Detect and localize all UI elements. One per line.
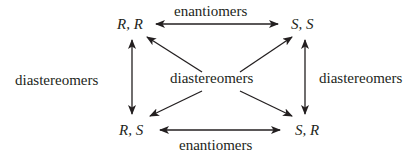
diag-arrow-top-right (240, 37, 292, 72)
node-ss: S, S (291, 17, 314, 32)
diag-arrow-bottom-right (240, 91, 292, 116)
label-enantiomers-top: enantiomers (174, 4, 247, 19)
node-rs: R, S (119, 123, 143, 138)
diag-arrow-top-left (147, 37, 202, 72)
label-diastereomers-left: diastereomers (15, 73, 98, 88)
node-sr: S, R (295, 123, 319, 138)
label-enantiomers-bottom: enantiomers (179, 138, 252, 153)
label-diastereomers-center: diastereomers (170, 71, 253, 86)
label-diastereomers-right: diastereomers (319, 71, 402, 86)
node-rr: R, R (117, 17, 143, 32)
diag-arrow-bottom-left (150, 91, 202, 116)
